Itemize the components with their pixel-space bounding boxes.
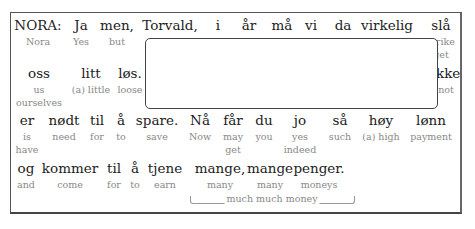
- word-gloss: you: [255, 132, 272, 142]
- word-gloss: not: [438, 85, 454, 95]
- word-gloss: may: [223, 132, 243, 142]
- word[interactable]: løs.: [118, 67, 142, 81]
- word-gloss: moneys: [301, 180, 338, 190]
- word-gloss: Yes: [73, 37, 89, 47]
- word-gloss: for: [90, 132, 104, 142]
- word-gloss-secondary: ourselves: [16, 98, 62, 108]
- word[interactable]: å: [117, 114, 125, 128]
- word-gloss: yes: [292, 132, 308, 142]
- popup-box[interactable]: [145, 38, 438, 109]
- word[interactable]: høy: [369, 114, 393, 128]
- word[interactable]: mange: [247, 162, 293, 176]
- word-gloss: payment: [410, 132, 452, 142]
- word-gloss: loose: [118, 85, 143, 95]
- word[interactable]: nødt: [49, 114, 80, 128]
- word[interactable]: år: [242, 19, 257, 33]
- word-gloss: many: [257, 180, 283, 190]
- word-gloss: such: [329, 132, 351, 142]
- word[interactable]: jo: [294, 114, 306, 128]
- word[interactable]: men,: [100, 19, 134, 33]
- word-gloss: and: [17, 180, 35, 190]
- word[interactable]: du: [255, 114, 272, 128]
- word[interactable]: er: [20, 114, 34, 128]
- word[interactable]: får: [223, 114, 243, 128]
- word[interactable]: vi: [305, 19, 317, 33]
- word-gloss-secondary: have: [16, 145, 39, 155]
- word[interactable]: og: [18, 162, 35, 176]
- word[interactable]: penger.: [293, 162, 344, 176]
- word[interactable]: da: [335, 19, 352, 33]
- word[interactable]: mange,: [195, 162, 245, 176]
- word-gloss: earn: [154, 180, 176, 190]
- word-gloss: many: [207, 180, 233, 190]
- word[interactable]: lønn: [416, 114, 446, 128]
- word-gloss: (a) little: [72, 85, 110, 95]
- word[interactable]: slå: [431, 19, 450, 33]
- word-gloss: Now: [189, 132, 211, 142]
- word[interactable]: til: [90, 114, 104, 128]
- word[interactable]: tjene: [148, 162, 182, 176]
- word-gloss-secondary: indeed: [284, 145, 317, 155]
- word[interactable]: kommer: [42, 162, 98, 176]
- word-gloss: us: [34, 85, 45, 95]
- word-gloss: come: [57, 180, 83, 190]
- word-gloss: but: [109, 37, 125, 47]
- word-gloss-secondary: get: [225, 145, 241, 155]
- word[interactable]: virkelig: [361, 19, 413, 33]
- word[interactable]: i: [216, 19, 220, 33]
- word[interactable]: Torvald,: [142, 19, 197, 33]
- word-gloss: save: [146, 132, 168, 142]
- word[interactable]: må: [272, 19, 293, 33]
- word-gloss: for: [107, 180, 121, 190]
- word[interactable]: litt: [81, 67, 101, 81]
- word-gloss: Nora: [26, 37, 50, 47]
- word[interactable]: NORA:: [14, 19, 61, 33]
- word-gloss: is: [23, 132, 31, 142]
- word[interactable]: oss: [28, 67, 50, 81]
- phrase-gloss-label: much much money: [224, 194, 319, 204]
- word-gloss: to: [116, 132, 126, 142]
- word[interactable]: til: [107, 162, 121, 176]
- word-gloss: (a) high: [362, 132, 399, 142]
- word[interactable]: så: [333, 114, 348, 128]
- word[interactable]: å: [131, 162, 139, 176]
- word[interactable]: Nå: [190, 114, 210, 128]
- word[interactable]: spare.: [136, 114, 178, 128]
- word[interactable]: Ja: [74, 19, 87, 33]
- word-gloss: need: [52, 132, 75, 142]
- word-gloss: to: [130, 180, 140, 190]
